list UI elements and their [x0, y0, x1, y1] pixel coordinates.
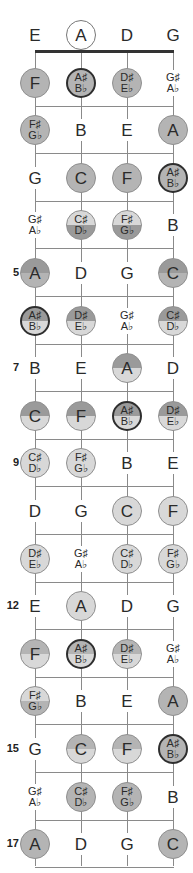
note-marker: F — [157, 495, 189, 527]
note-marker: C — [19, 400, 51, 432]
note-marker: G♯A♭ — [24, 784, 46, 810]
fret-line — [35, 201, 174, 202]
note-label: A — [167, 693, 178, 710]
note-marker: B — [70, 690, 92, 712]
note-label: C — [75, 170, 87, 187]
fret-number-12: 12 — [3, 599, 19, 611]
fret-line — [35, 296, 174, 297]
note-marker: B — [162, 214, 184, 236]
note-label: F♯G♭ — [28, 690, 42, 712]
note-marker: F♯G♭ — [19, 114, 51, 146]
note-label: E — [121, 122, 132, 139]
note-label: G♯A♭ — [166, 72, 180, 94]
note-label: B — [167, 217, 178, 234]
note-marker: G — [116, 262, 138, 284]
note-label: F — [76, 408, 86, 425]
fret-number-5: 5 — [3, 266, 19, 278]
note-marker: D — [70, 262, 92, 284]
note-marker: F♯G♭ — [65, 447, 97, 479]
fret-line — [35, 582, 174, 583]
note-marker: G♯A♭ — [162, 641, 184, 667]
fret-line — [35, 867, 174, 868]
note-label: E — [167, 455, 178, 472]
note-marker: C — [157, 828, 189, 860]
note-marker: G♯A♭ — [162, 70, 184, 96]
note-marker: E — [116, 690, 138, 712]
note-marker: A♯B♭ — [111, 400, 143, 432]
note-label: E — [29, 598, 40, 615]
note-marker: D — [116, 595, 138, 617]
note-marker: A — [157, 685, 189, 717]
note-marker: C — [157, 257, 189, 289]
note-marker: G♯A♭ — [116, 308, 138, 334]
note-label: G♯A♭ — [28, 786, 42, 808]
nut — [35, 50, 174, 53]
note-marker: D — [116, 24, 138, 46]
note-label: A♯B♭ — [167, 167, 180, 189]
note-label: F♯G♭ — [28, 119, 42, 141]
note-marker: A — [19, 257, 51, 289]
note-marker: C — [111, 495, 143, 527]
note-label: C — [121, 503, 133, 520]
fretboard-diagram: EADGFA♯B♭D♯E♭G♯A♭F♯G♭BEAGCFA♯B♭G♯A♭C♯D♭F… — [0, 0, 193, 873]
fret-line — [35, 106, 174, 107]
note-marker: E — [70, 357, 92, 379]
note-label: D — [75, 836, 87, 853]
fret-line — [35, 391, 174, 392]
note-label: A — [75, 598, 86, 615]
note-marker: F♯G♭ — [111, 781, 143, 813]
note-label: B — [29, 360, 40, 377]
note-label: B — [75, 122, 86, 139]
note-label: C♯D♭ — [166, 310, 179, 332]
note-label: D — [121, 598, 133, 615]
note-marker: E — [24, 595, 46, 617]
fret-line — [35, 344, 174, 345]
note-marker: A♯B♭ — [157, 162, 189, 194]
note-label: G♯A♭ — [28, 214, 42, 236]
fret-line — [35, 677, 174, 678]
note-label: G — [166, 598, 179, 615]
note-label: G — [120, 836, 133, 853]
note-label: C — [29, 408, 41, 425]
note-marker: G — [24, 167, 46, 189]
note-label: A♯B♭ — [75, 643, 88, 665]
note-label: D — [121, 27, 133, 44]
note-label: B — [121, 455, 132, 472]
fret-number-9: 9 — [3, 456, 19, 468]
note-marker: E — [162, 452, 184, 474]
note-marker: D — [24, 500, 46, 522]
note-label: D — [75, 265, 87, 282]
note-label: F♯G♭ — [166, 548, 180, 570]
note-marker: F — [19, 67, 51, 99]
note-marker: C♯D♭ — [19, 447, 51, 479]
note-marker: D — [70, 833, 92, 855]
note-marker: A — [65, 590, 97, 622]
note-marker: A — [19, 828, 51, 860]
note-label: D♯E♭ — [120, 643, 133, 665]
note-marker: G — [162, 595, 184, 617]
note-label: A — [121, 360, 132, 377]
note-marker: A — [111, 352, 143, 384]
note-marker: C♯D♭ — [157, 305, 189, 337]
note-marker: B — [24, 357, 46, 379]
note-label: A — [75, 27, 86, 44]
note-marker: F♯G♭ — [19, 685, 51, 717]
note-marker: A♯B♭ — [65, 638, 97, 670]
note-label: C — [167, 265, 179, 282]
note-marker: E — [116, 119, 138, 141]
note-label: C♯D♭ — [74, 786, 87, 808]
fret-line — [35, 772, 174, 773]
note-marker: C — [65, 162, 97, 194]
note-marker: G — [70, 500, 92, 522]
note-marker: F — [111, 162, 143, 194]
note-label: F — [168, 503, 178, 520]
note-marker: A — [157, 114, 189, 146]
note-label: A — [167, 122, 178, 139]
note-label: D♯E♭ — [166, 405, 179, 427]
note-marker: C — [65, 733, 97, 765]
note-label: A♯B♭ — [121, 405, 134, 427]
fret-line — [35, 820, 174, 821]
note-label: D♯E♭ — [74, 310, 87, 332]
note-label: E — [29, 27, 40, 44]
fret-line — [35, 629, 174, 630]
